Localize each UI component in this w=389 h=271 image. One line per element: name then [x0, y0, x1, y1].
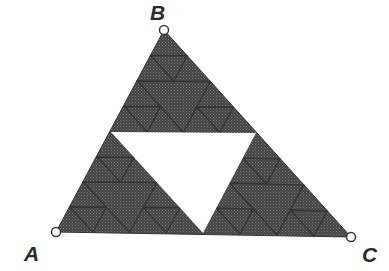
vertex-label-c: C [362, 243, 378, 266]
vertex-label-a: A [23, 242, 39, 265]
vertex-marker-c [347, 233, 356, 242]
vertex-marker-a [52, 228, 61, 237]
vertex-marker-b [160, 26, 169, 35]
sierpinski-diagram: A B C [0, 0, 389, 271]
vertex-label-b: B [150, 1, 165, 24]
